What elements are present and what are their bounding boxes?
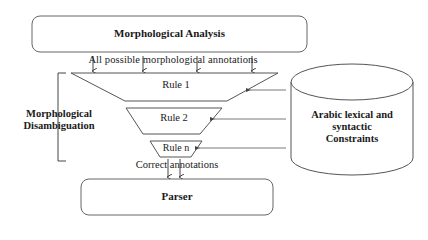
parser-label: Parser — [81, 190, 273, 202]
disambiguation-label-line1: Morphological — [10, 108, 108, 119]
database-label-line3: Constraints — [291, 133, 413, 144]
morphological-analysis-label: Morphological Analysis — [32, 27, 307, 39]
database-label-line1: Arabic lexical and — [291, 109, 413, 120]
rule-2-label: Rule 2 — [126, 112, 222, 123]
output-annotations-label: Correct annotations — [122, 159, 232, 170]
input-annotations-label: All possible morphological annotations — [66, 54, 280, 65]
disambiguation-label-line2: Disambiguation — [10, 120, 108, 131]
database-label-line2: syntactic — [291, 121, 413, 132]
rule-n-label: Rule n — [150, 142, 202, 153]
rule-1-label: Rule 1 — [125, 79, 227, 90]
